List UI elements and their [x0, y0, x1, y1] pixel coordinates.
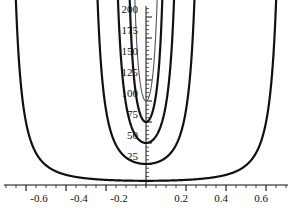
chart-canvas: 200 175 150 125 100 75 50 25 -0.6 -0.4 -…: [0, 0, 292, 212]
y-axis-ticks: [146, 9, 152, 181]
potential-curves-plot: [0, 0, 292, 212]
